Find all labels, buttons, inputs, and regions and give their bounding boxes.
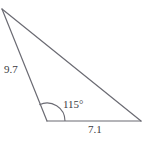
triangle-diagram: 9.7 115° 7.1 — [0, 0, 144, 144]
angle-measure-label: 115° — [63, 99, 84, 110]
triangle-svg — [0, 0, 144, 144]
side-length-label-base: 7.1 — [88, 124, 102, 135]
side-length-label-left: 9.7 — [4, 64, 18, 75]
